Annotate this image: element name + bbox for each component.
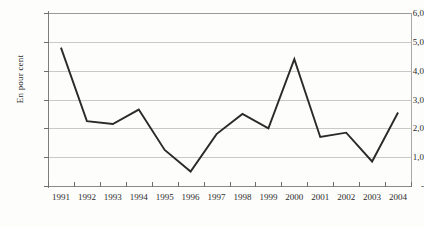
series-polyline — [61, 48, 398, 172]
line-chart: En pour cent 6,05,04,03,02,01,0- 1991199… — [0, 0, 424, 227]
series-line — [0, 0, 424, 227]
